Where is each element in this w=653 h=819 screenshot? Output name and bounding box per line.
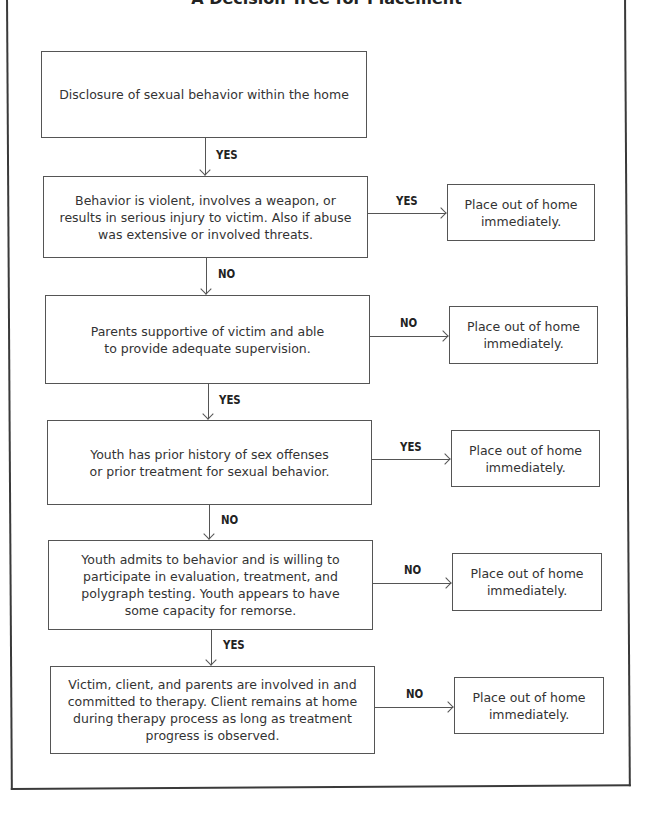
edge-label: NO — [218, 267, 235, 281]
node-parents: Parents supportive of victim and able to… — [45, 295, 370, 384]
edge-line — [373, 583, 451, 584]
outcome-place-out: Place out of home immediately. — [447, 184, 595, 241]
edge-label: YES — [223, 638, 245, 652]
node-text: Youth has prior history of sex offenses … — [88, 446, 331, 480]
edge-line — [375, 707, 453, 708]
edge-label: YES — [219, 393, 241, 407]
node-text: Youth admits to behavior and is willing … — [63, 551, 358, 619]
edge-label: NO — [406, 687, 423, 701]
node-text: Victim, client, and parents are involved… — [65, 676, 360, 744]
node-disclosure: Disclosure of sexual behavior within the… — [41, 51, 367, 138]
edge-label: NO — [221, 513, 238, 527]
outcome-place-out: Place out of home immediately. — [451, 430, 600, 487]
node-history: Youth has prior history of sex offenses … — [47, 420, 372, 505]
node-admits: Youth admits to behavior and is willing … — [48, 540, 373, 630]
edge-label: NO — [404, 563, 421, 577]
edge-label: YES — [396, 194, 418, 208]
outcome-place-out: Place out of home immediately. — [452, 553, 602, 611]
edge-line — [368, 213, 446, 214]
edge-line — [370, 336, 448, 337]
outcome-place-out: Place out of home immediately. — [454, 677, 604, 734]
node-text: Parents supportive of victim and able to… — [86, 323, 329, 357]
edge-label: YES — [216, 148, 238, 162]
outcome-text: Place out of home immediately. — [463, 565, 591, 599]
outcome-text: Place out of home immediately. — [465, 689, 593, 723]
node-violent: Behavior is violent, involves a weapon, … — [43, 176, 368, 258]
outcome-text: Place out of home immediately. — [462, 442, 589, 476]
edge-label: YES — [400, 440, 422, 454]
node-therapy: Victim, client, and parents are involved… — [50, 666, 375, 754]
node-text: Behavior is violent, involves a weapon, … — [54, 192, 357, 243]
edge-line — [372, 459, 450, 460]
outcome-place-out: Place out of home immediately. — [449, 306, 598, 364]
outcome-text: Place out of home immediately. — [458, 196, 584, 230]
outcome-text: Place out of home immediately. — [460, 318, 587, 352]
edge-label: NO — [400, 316, 417, 330]
node-text: Disclosure of sexual behavior within the… — [59, 86, 349, 103]
